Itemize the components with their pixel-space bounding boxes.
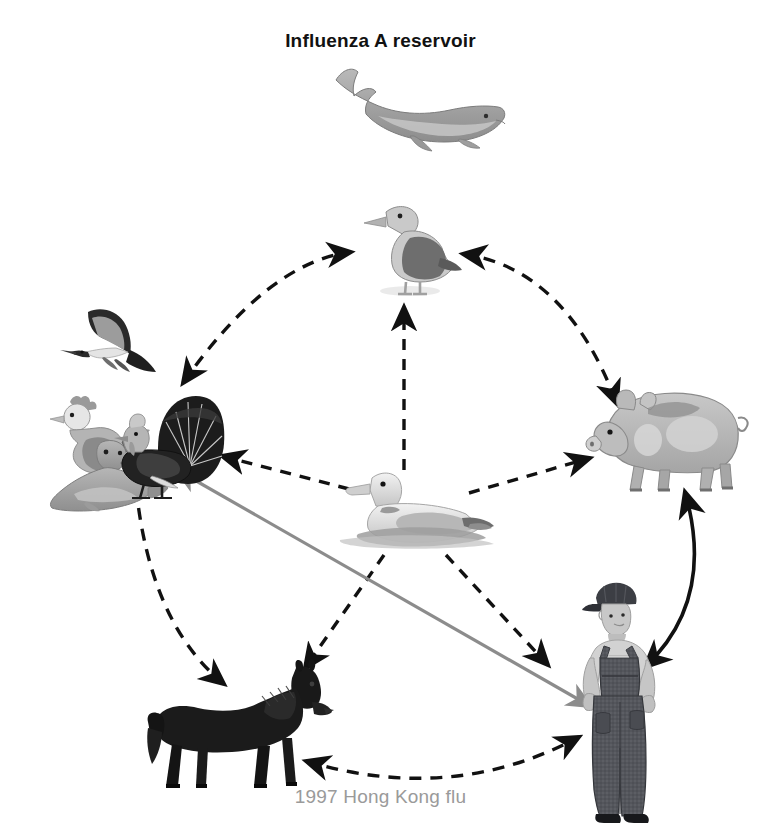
whale-icon [318, 58, 508, 158]
page-title: Influenza A reservoir [0, 30, 761, 52]
node-wild-birds[interactable] [58, 300, 170, 396]
human-farmer-icon [562, 576, 680, 824]
node-whale[interactable] [318, 58, 508, 158]
diagram-canvas: Influenza A reservoir 1997 Hong Kong flu [0, 0, 761, 840]
wild-birds-gull-link [183, 252, 351, 383]
node-turkey[interactable] [106, 392, 228, 502]
duck-poultry-link [222, 456, 349, 489]
node-pig[interactable] [582, 378, 750, 496]
node-duck[interactable] [336, 466, 498, 552]
node-horse[interactable] [146, 658, 336, 790]
flying-seabird-icon [58, 300, 170, 396]
pig-icon [582, 378, 750, 496]
turkey-icon [106, 392, 228, 502]
duck-icon [336, 466, 498, 552]
horse-human-link [306, 737, 579, 778]
node-human[interactable] [562, 576, 680, 824]
duck-human-link [446, 555, 548, 665]
duck-horse-link [305, 555, 384, 668]
horse-icon [146, 658, 336, 790]
node-gull[interactable] [348, 196, 466, 300]
gull-icon [348, 196, 466, 300]
